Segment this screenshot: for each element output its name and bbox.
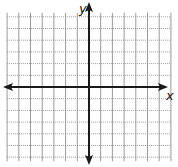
x-axis [3,83,168,91]
coordinate-plane: y x [0,0,178,167]
y-axis-label: y [78,1,87,16]
x-axis-label: x [165,88,174,103]
y-axis [85,2,93,165]
